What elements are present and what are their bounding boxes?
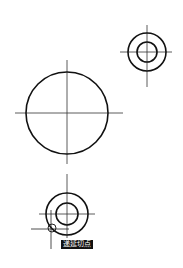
- drawing-canvas[interactable]: [0, 0, 183, 268]
- target-top-right[interactable]: [120, 25, 172, 87]
- big-circle[interactable]: [15, 60, 123, 164]
- target-bottom[interactable]: [39, 174, 95, 238]
- snap-tooltip: 递延切点: [61, 240, 93, 249]
